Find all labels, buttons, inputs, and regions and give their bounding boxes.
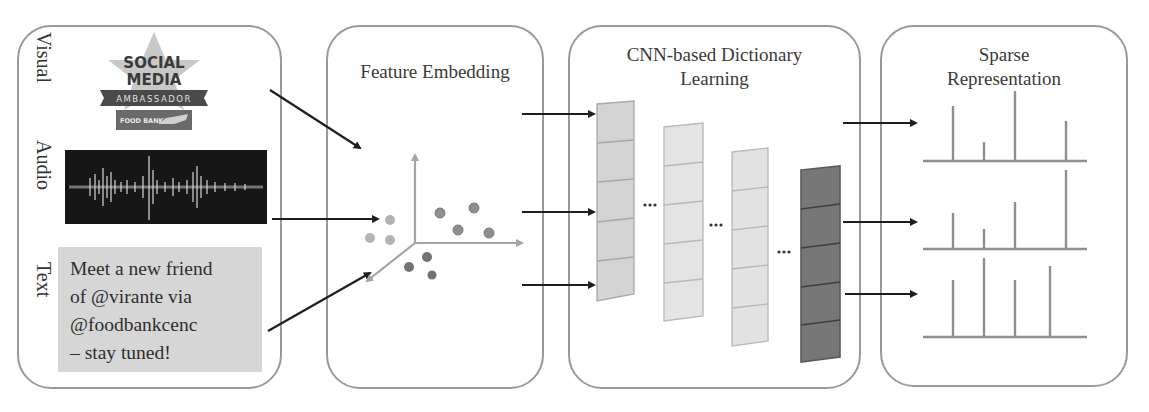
embedding-points-mid <box>435 203 494 238</box>
cnn-layer-column-4 <box>801 166 840 362</box>
sparse-chart-1 <box>923 91 1087 161</box>
sparse-chart-3 <box>923 258 1087 337</box>
embedding-points-dark <box>404 252 437 280</box>
text-arrow <box>268 273 370 331</box>
z-axis <box>367 243 415 281</box>
input-to-embedding-arrows <box>268 90 378 331</box>
cnn-layer-column-3 <box>732 148 768 346</box>
cnn-to-sparse-arrows <box>843 123 916 294</box>
diagram-graphics <box>0 0 1149 412</box>
sparse-chart-2 <box>923 170 1087 249</box>
cnn-layer-column-2 <box>664 123 703 321</box>
visual-arrow <box>270 90 360 148</box>
cnn-layer-column-1 <box>597 101 634 301</box>
embedding-to-cnn-arrows <box>522 114 594 285</box>
